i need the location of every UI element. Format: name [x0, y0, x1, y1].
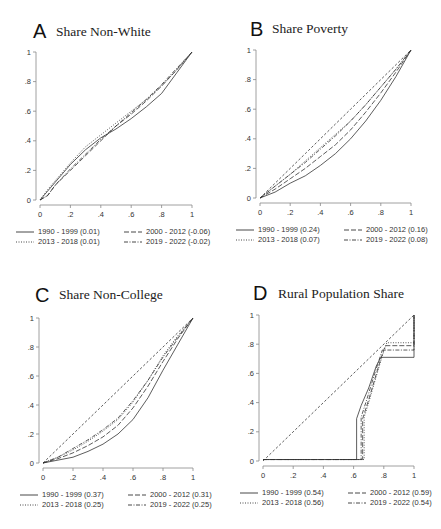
series-line [263, 315, 414, 460]
y-tick-label: 0 [27, 196, 31, 205]
series-line [263, 315, 414, 460]
legend-label: 2000 - 2012 (0.59) [370, 488, 432, 497]
y-tick-label: 1 [27, 48, 31, 57]
x-tick-label: 0 [38, 210, 42, 219]
x-tick-label: 0 [261, 471, 265, 480]
series-line [260, 50, 411, 198]
y-tick-label: .6 [248, 369, 254, 378]
solid-line-swatch-icon [20, 492, 38, 498]
legend-item: 1990 - 1999 (0.01) [16, 227, 100, 236]
dashdot-line-swatch-icon [128, 502, 146, 508]
longdash-line-swatch-icon [348, 490, 366, 496]
y-tick-label: .8 [245, 75, 251, 84]
longdash-line-swatch-icon [128, 492, 146, 498]
y-tick-label: .4 [25, 136, 31, 145]
x-tick-label: .4 [100, 473, 106, 482]
y-tick-label: .2 [28, 430, 34, 439]
chart-canvas: 00.2.2.4.4.6.6.8.81100.2.2.4.4.6.6.8.811… [0, 0, 441, 529]
y-tick-label: .8 [28, 343, 34, 352]
legend-item: 1990 - 1999 (0.54) [240, 488, 324, 497]
legend-item: 2013 - 2018 (0.56) [240, 498, 324, 507]
y-tick-label: .2 [25, 166, 31, 175]
legend-item: 2000 - 2012 (0.16) [344, 225, 428, 234]
solid-line-swatch-icon [16, 229, 34, 235]
x-tick-label: .8 [158, 210, 164, 219]
plot-panel-c: 00.2.2.4.4.6.6.8.811 [28, 314, 195, 483]
x-tick-label: 0 [41, 473, 45, 482]
x-tick-label: .8 [160, 473, 166, 482]
legend-label: 2019 - 2022 (0.08) [366, 235, 428, 244]
series-line [43, 318, 193, 463]
y-tick-label: 1 [30, 314, 34, 323]
legend-label: 2013 - 2018 (0.07) [258, 235, 320, 244]
legend-label: 2000 - 2012 (-0.06) [146, 227, 210, 236]
legend-item: 2000 - 2012 (-0.06) [124, 227, 210, 236]
legend-label: 2013 - 2018 (0.56) [262, 498, 324, 507]
y-tick-label: 0 [30, 459, 34, 468]
y-tick-label: 0 [247, 194, 251, 203]
legend-item: 2013 - 2018 (0.25) [20, 500, 104, 509]
legend-item: 2019 - 2022 (0.08) [344, 235, 428, 244]
legend-label: 2000 - 2012 (0.31) [150, 490, 212, 499]
dashdot-line-swatch-icon [348, 500, 366, 506]
legend-label: 2000 - 2012 (0.16) [366, 225, 428, 234]
x-tick-label: .6 [128, 210, 134, 219]
legend-label: 2019 - 2022 (-0.02) [146, 237, 210, 246]
x-tick-label: 0 [258, 208, 262, 217]
x-tick-label: .2 [70, 473, 76, 482]
y-tick-label: 1 [247, 46, 251, 55]
x-tick-label: .6 [130, 473, 136, 482]
legend-item: 2019 - 2022 (0.54) [348, 498, 432, 507]
plot-panel-a: 00.2.2.4.4.6.6.8.811 [25, 48, 194, 220]
y-tick-label: .6 [245, 105, 251, 114]
y-tick-label: .2 [248, 427, 254, 436]
x-tick-label: .2 [287, 208, 293, 217]
longdash-line-swatch-icon [344, 227, 362, 233]
x-tick-label: .6 [350, 471, 356, 480]
y-tick-label: 1 [250, 311, 254, 320]
longdash-line-swatch-icon [124, 229, 142, 235]
legend-item: 1990 - 1999 (0.37) [20, 490, 104, 499]
y-tick-label: .8 [25, 77, 31, 86]
y-tick-label: .6 [25, 107, 31, 116]
x-tick-label: .2 [290, 471, 296, 480]
x-tick-label: 1 [191, 473, 195, 482]
legend-label: 2013 - 2018 (0.01) [38, 237, 100, 246]
plot-panel-d: 00.2.2.4.4.6.6.8.811 [248, 311, 416, 481]
y-tick-label: .8 [248, 340, 254, 349]
x-tick-label: 1 [412, 471, 416, 480]
series-line [263, 315, 414, 460]
legend-item: 2000 - 2012 (0.31) [128, 490, 212, 499]
y-tick-label: 0 [250, 457, 254, 466]
legend-label: 2019 - 2022 (0.25) [150, 500, 212, 509]
dashdot-line-swatch-icon [344, 237, 362, 243]
x-tick-label: 1 [409, 208, 413, 217]
x-tick-label: 1 [190, 210, 194, 219]
x-tick-label: .6 [347, 208, 353, 217]
plot-panel-b: 00.2.2.4.4.6.6.8.811 [245, 46, 413, 218]
dotted-line-swatch-icon [236, 237, 254, 243]
solid-line-swatch-icon [240, 490, 258, 496]
y-tick-label: .6 [28, 372, 34, 381]
y-tick-label: .2 [245, 164, 251, 173]
legend-item: 1990 - 1999 (0.24) [236, 225, 320, 234]
x-tick-label: .8 [378, 208, 384, 217]
series-line [263, 315, 414, 460]
legend-item: 2019 - 2022 (-0.02) [124, 237, 210, 246]
dotted-line-swatch-icon [16, 239, 34, 245]
y-tick-label: .4 [28, 401, 34, 410]
legend-label: 1990 - 1999 (0.54) [262, 488, 324, 497]
legend-item: 2013 - 2018 (0.07) [236, 235, 320, 244]
x-tick-label: .4 [320, 471, 326, 480]
legend-label: 1990 - 1999 (0.24) [258, 225, 320, 234]
y-tick-label: .4 [248, 398, 254, 407]
legend-item: 2019 - 2022 (0.25) [128, 500, 212, 509]
solid-line-swatch-icon [236, 227, 254, 233]
dotted-line-swatch-icon [20, 502, 38, 508]
dashdot-line-swatch-icon [124, 239, 142, 245]
y-tick-label: .4 [245, 134, 251, 143]
x-tick-label: .4 [98, 210, 104, 219]
series-line [263, 315, 414, 461]
legend-label: 2019 - 2022 (0.54) [370, 498, 432, 507]
legend-item: 2000 - 2012 (0.59) [348, 488, 432, 497]
